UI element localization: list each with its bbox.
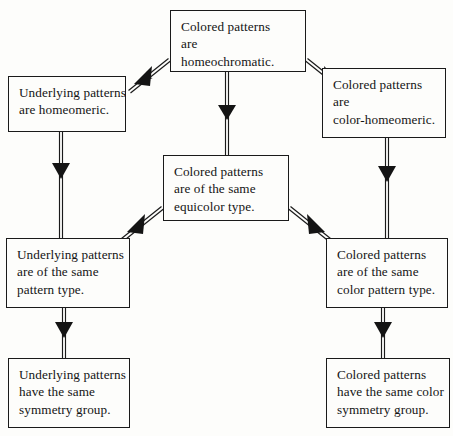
node-underlying-patterns-homeomeric: Underlying patterns are homeomeric.: [8, 76, 126, 132]
node-text-line: have the same: [19, 383, 120, 400]
node-underlying-patterns-pattern-type: Underlying patterns are of the same patt…: [6, 238, 130, 308]
edge-right-mid-to-right-bottom: [374, 308, 392, 358]
node-colored-patterns-color-homeomeric: Colored patterns are color-homeomeric.: [322, 68, 446, 138]
node-colored-patterns-equicolor-type: Colored patterns are of the same equicol…: [163, 155, 289, 221]
node-text-line: pattern type.: [17, 281, 120, 298]
node-text-line: Colored patterns: [181, 18, 296, 35]
node-text-line: are of the same: [337, 263, 438, 280]
edge-center-to-left-mid: [122, 207, 164, 242]
edge-top-to-center: [218, 72, 236, 155]
node-underlying-patterns-symmetry-group: Underlying patterns have the same symmet…: [8, 358, 130, 428]
node-text-line: color pattern type.: [337, 281, 438, 298]
node-text-line: Colored patterns: [333, 76, 436, 93]
node-colored-patterns-homeochromatic: Colored patterns are homeochromatic.: [170, 10, 306, 72]
node-text-line: symmetry group.: [337, 401, 440, 418]
node-text-line: Underlying patterns: [19, 84, 116, 101]
node-text-line: Colored patterns: [174, 163, 279, 180]
node-text-line: Underlying patterns: [19, 366, 120, 383]
edge-center-to-right-mid: [289, 207, 331, 242]
edge-left-top-to-left-mid: [52, 132, 70, 238]
node-text-line: are: [181, 35, 296, 52]
node-colored-patterns-color-symmetry-group: Colored patterns have the same color sym…: [326, 358, 450, 428]
node-text-line: are: [333, 93, 436, 110]
node-text-line: are homeomeric.: [19, 101, 116, 118]
edge-top-to-left-top: [129, 59, 171, 94]
edge-right-top-to-right-mid: [378, 138, 396, 238]
node-text-line: Colored patterns: [337, 366, 440, 383]
node-text-line: equicolor type.: [174, 198, 279, 215]
node-text-line: symmetry group.: [19, 401, 120, 418]
implication-diagram: Colored patterns are homeochromatic. Und…: [0, 0, 453, 436]
node-text-line: are of the same: [17, 263, 120, 280]
node-text-line: are of the same: [174, 180, 279, 197]
node-text-line: homeochromatic.: [181, 53, 296, 70]
node-text-line: have the same color: [337, 383, 440, 400]
node-text-line: color-homeomeric.: [333, 111, 436, 128]
node-colored-patterns-color-pattern-type: Colored patterns are of the same color p…: [326, 238, 448, 308]
edge-left-mid-to-left-bottom: [55, 308, 73, 358]
node-text-line: Underlying patterns: [17, 246, 120, 263]
node-text-line: Colored patterns: [337, 246, 438, 263]
